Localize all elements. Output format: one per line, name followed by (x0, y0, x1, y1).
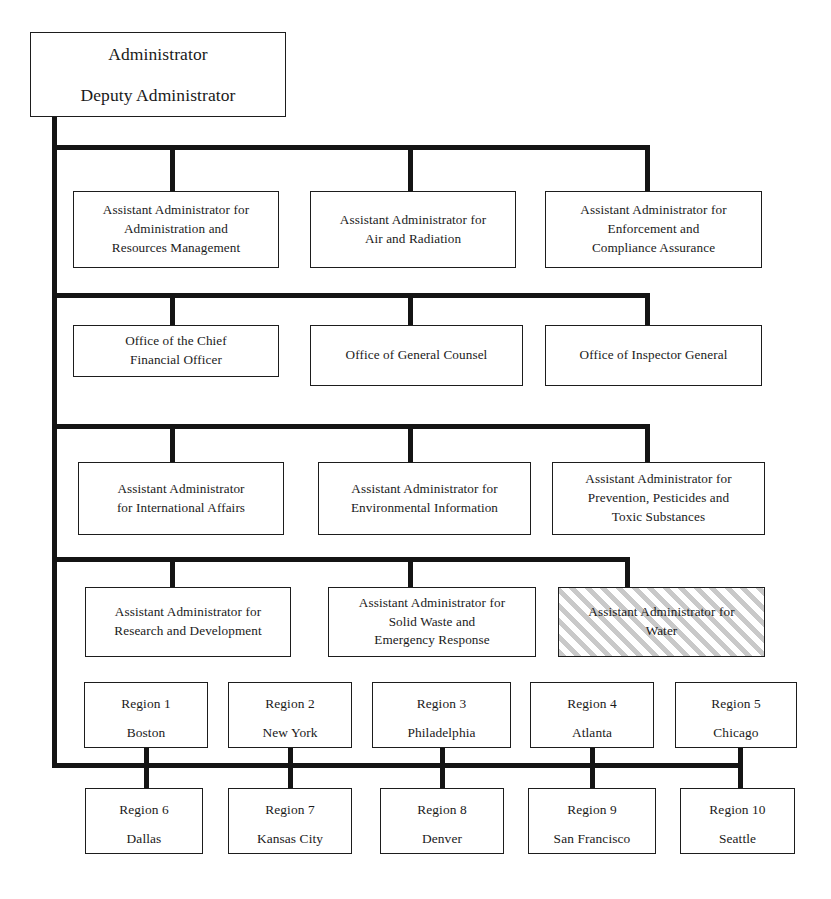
node-region-5[interactable]: Region 5 Chicago (675, 682, 797, 748)
node-drop-connector (645, 293, 650, 327)
node-region-2[interactable]: Region 2 New York (228, 682, 352, 748)
node-line: Region 4 (567, 694, 617, 713)
node-line: Solid Waste and (389, 613, 476, 632)
node-line: Assistant Administrator for (103, 201, 249, 220)
node-line: Region 10 (709, 800, 765, 819)
node-line: Assistant Administrator for (351, 480, 497, 499)
node-drop-connector (440, 746, 445, 790)
node-line: Toxic Substances (612, 508, 705, 527)
node-line: Compliance Assurance (592, 239, 715, 258)
node-line: Research and Development (114, 622, 261, 641)
node-line: Philadelphia (407, 723, 475, 742)
node-line: Office of General Counsel (346, 346, 488, 365)
node-line: Office of the Chief (125, 332, 227, 351)
node-line: Environmental Information (351, 499, 498, 518)
node-aa-research-development[interactable]: Assistant Administrator for Research and… (85, 587, 291, 657)
node-line: Water (646, 622, 678, 641)
node-line: Assistant Administrator for (359, 594, 505, 613)
node-drop-connector (170, 424, 175, 464)
node-aa-water[interactable]: Assistant Administrator for Water (558, 587, 765, 657)
node-line: Atlanta (572, 723, 612, 742)
node-office-general-counsel[interactable]: Office of General Counsel (310, 325, 523, 386)
node-line: Financial Officer (130, 351, 222, 370)
node-drop-connector (625, 557, 630, 589)
node-line: Office of Inspector General (580, 346, 728, 365)
node-line: Kansas City (257, 829, 323, 848)
node-line: New York (262, 723, 317, 742)
node-line: Chicago (713, 723, 758, 742)
node-line: Prevention, Pesticides and (588, 489, 729, 508)
node-line: Dallas (127, 829, 162, 848)
trunk-connector (52, 112, 57, 768)
node-line: Deputy Administrator (80, 82, 235, 108)
node-drop-connector (170, 557, 175, 589)
row-connector-bar (52, 145, 650, 150)
node-line: Enforcement and (608, 220, 700, 239)
node-line: Assistant Administrator for (580, 201, 726, 220)
org-chart-canvas: Administrator Deputy Administrator Assis… (0, 0, 831, 899)
node-drop-connector (288, 746, 293, 790)
node-office-inspector-general[interactable]: Office of Inspector General (545, 325, 762, 386)
row-connector-bar (52, 557, 630, 562)
node-line: Region 7 (265, 800, 315, 819)
node-administrator[interactable]: Administrator Deputy Administrator (30, 32, 286, 117)
node-line: Region 8 (417, 800, 467, 819)
row-connector-bar (52, 424, 650, 429)
node-drop-connector (408, 424, 413, 464)
node-line: San Francisco (554, 829, 631, 848)
node-line: Assistant Administrator for (588, 603, 734, 622)
node-line: Region 1 (121, 694, 171, 713)
node-line: Air and Radiation (365, 230, 461, 249)
node-line: Denver (422, 829, 462, 848)
node-line: Seattle (719, 829, 756, 848)
node-line: Assistant Administrator for (585, 470, 731, 489)
node-drop-connector (590, 746, 595, 790)
node-office-chief-financial-officer[interactable]: Office of the Chief Financial Officer (73, 325, 279, 377)
node-line: Region 5 (711, 694, 761, 713)
node-drop-connector (738, 746, 743, 790)
node-region-6[interactable]: Region 6 Dallas (85, 788, 203, 854)
node-line: Assistant Administrator for (340, 211, 486, 230)
node-aa-enforcement-compliance[interactable]: Assistant Administrator for Enforcement … (545, 191, 762, 268)
node-line: Region 3 (417, 694, 467, 713)
node-aa-prevention-pesticides-toxic[interactable]: Assistant Administrator for Prevention, … (552, 462, 765, 535)
node-region-4[interactable]: Region 4 Atlanta (530, 682, 654, 748)
node-line: Region 6 (119, 800, 169, 819)
node-line: Region 9 (567, 800, 617, 819)
node-line: Assistant Administrator (117, 480, 244, 499)
node-aa-international-affairs[interactable]: Assistant Administrator for Internationa… (78, 462, 284, 535)
node-drop-connector (144, 746, 149, 790)
node-aa-air-radiation[interactable]: Assistant Administrator for Air and Radi… (310, 191, 516, 268)
row-connector-bar (52, 763, 742, 768)
node-region-1[interactable]: Region 1 Boston (84, 682, 208, 748)
node-drop-connector (170, 293, 175, 327)
row-connector-bar (52, 293, 650, 298)
node-region-3[interactable]: Region 3 Philadelphia (372, 682, 511, 748)
node-line: Region 2 (265, 694, 315, 713)
node-line: Administrator (108, 41, 207, 67)
node-drop-connector (645, 145, 650, 192)
node-region-7[interactable]: Region 7 Kansas City (228, 788, 352, 854)
node-line: Boston (127, 723, 166, 742)
node-line: Assistant Administrator for (115, 603, 261, 622)
node-region-8[interactable]: Region 8 Denver (380, 788, 504, 854)
node-drop-connector (408, 557, 413, 589)
node-region-9[interactable]: Region 9 San Francisco (528, 788, 656, 854)
node-line: for International Affairs (117, 499, 245, 518)
node-aa-environmental-information[interactable]: Assistant Administrator for Environmenta… (318, 462, 531, 535)
node-drop-connector (408, 293, 413, 327)
node-drop-connector (645, 424, 650, 464)
node-region-10[interactable]: Region 10 Seattle (680, 788, 795, 854)
node-line: Administration and (124, 220, 228, 239)
node-line: Resources Management (112, 239, 240, 258)
node-aa-solid-waste-emergency[interactable]: Assistant Administrator for Solid Waste … (328, 587, 536, 657)
node-aa-administration-resources[interactable]: Assistant Administrator for Administrati… (73, 191, 279, 268)
node-drop-connector (170, 145, 175, 192)
node-line: Emergency Response (374, 631, 489, 650)
node-drop-connector (408, 145, 413, 192)
